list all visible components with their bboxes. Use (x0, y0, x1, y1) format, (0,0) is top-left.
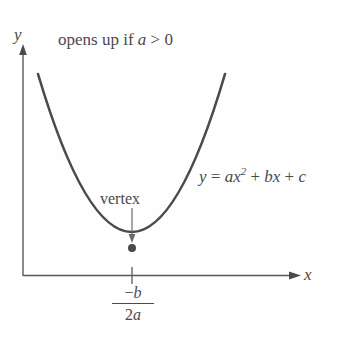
vertex-x-formula: −b 2a (110, 284, 156, 324)
equation-lhs: y (199, 167, 207, 186)
vertex-pointer-arrow-icon (129, 208, 136, 243)
vertex-pointer-head (129, 234, 136, 243)
opens-up-prefix: opens up if (58, 30, 138, 49)
opens-up-relation: > 0 (146, 30, 173, 49)
vertex-label: vertex (100, 191, 140, 207)
equation-variable-x: x (233, 167, 241, 186)
x-axis (23, 272, 301, 280)
equation-constant-c: c (298, 167, 306, 186)
fraction-bar (112, 303, 154, 304)
y-axis-arrowhead-icon (19, 44, 27, 55)
equation-plus-2: + (280, 167, 298, 186)
y-axis-label: y (14, 26, 22, 43)
opens-up-annotation: opens up if a > 0 (58, 31, 173, 48)
vertex-formula-b: b (134, 284, 142, 301)
vertex-formula-a: a (133, 306, 141, 323)
equation-coefficient-b: b (264, 167, 273, 186)
equation-plus-1: + (246, 167, 264, 186)
vertex-formula-numerator: −b (110, 284, 156, 302)
parabola-figure (0, 0, 362, 361)
x-axis-label: x (304, 266, 312, 283)
equation-annotation: y = ax2 + bx + c (199, 168, 306, 185)
vertex-formula-minus-sign: − (124, 284, 133, 301)
vertex-formula-two: 2 (125, 306, 133, 323)
y-axis (19, 44, 27, 276)
vertex-point (128, 244, 136, 252)
x-axis-arrowhead-icon (289, 272, 301, 280)
vertex-formula-denominator: 2a (110, 305, 156, 323)
equation-equals: = (207, 167, 225, 186)
equation-coefficient-a: a (225, 167, 234, 186)
